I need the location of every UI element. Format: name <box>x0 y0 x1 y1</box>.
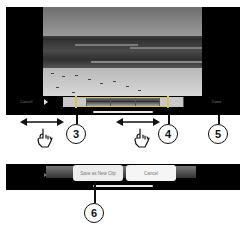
cancel-button[interactable]: Cancel <box>126 165 176 181</box>
footprint <box>138 90 141 91</box>
play-icon[interactable] <box>44 99 48 105</box>
footprint <box>62 76 65 77</box>
footprint <box>56 87 59 88</box>
beach <box>43 68 202 96</box>
callout-5: 5 <box>208 124 228 144</box>
double-arrow-icon <box>116 118 160 126</box>
callout-4-leader <box>168 115 170 124</box>
save-as-new-clip-button[interactable]: Save as New Clip <box>73 165 123 181</box>
cancel-button[interactable]: Cancel <box>20 99 32 104</box>
save-options-bar: Save as New Clip Cancel <box>6 164 240 190</box>
pointing-hand-icon <box>36 128 54 148</box>
wave <box>91 61 202 63</box>
callout-4: 4 <box>158 124 178 144</box>
footprint <box>113 81 116 82</box>
home-indicator <box>93 185 153 187</box>
trim-handle-left[interactable] <box>75 96 77 108</box>
sea <box>43 38 202 69</box>
footprint <box>51 73 54 74</box>
video-preview <box>43 7 202 96</box>
double-arrow-icon <box>20 118 64 126</box>
callout-6: 6 <box>84 203 104 223</box>
play-icon <box>44 173 47 177</box>
footprint <box>126 86 129 87</box>
pointing-hand-icon <box>133 128 151 148</box>
footprint <box>88 79 91 80</box>
done-button[interactable]: Done <box>212 99 222 104</box>
wave <box>130 47 202 49</box>
footprint <box>100 83 103 84</box>
footprint <box>72 92 75 93</box>
callout-3-leader <box>76 115 78 124</box>
wave <box>75 44 139 46</box>
callout-6-leader <box>94 182 96 203</box>
video-editor-screen: Cancel Done <box>6 7 240 115</box>
trim-selection <box>75 97 169 107</box>
footprint <box>75 75 78 76</box>
trim-handle-right[interactable] <box>167 96 169 108</box>
sky <box>43 7 202 36</box>
callout-3: 3 <box>66 124 86 144</box>
home-indicator <box>93 111 153 113</box>
callout-5-leader <box>218 115 220 124</box>
